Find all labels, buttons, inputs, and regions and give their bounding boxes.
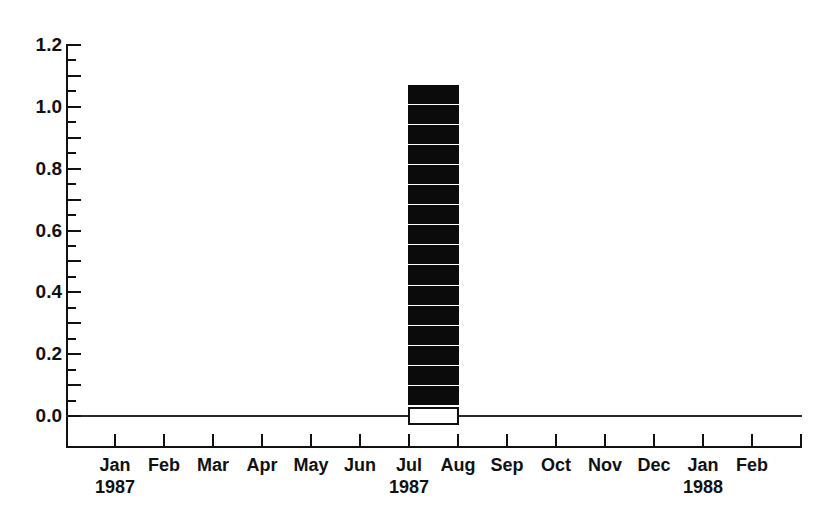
y-tick-0.95 — [68, 121, 76, 123]
x-axis-month-labels: Jan1987FebMarAprMayJunJul1987AugSepOctNo… — [0, 455, 834, 525]
y-tick-1.20 — [68, 44, 81, 46]
chart-figure: 0.00.20.40.60.81.01.2 Jan1987FebMarAprMa… — [0, 0, 834, 532]
x-tick-2 — [163, 434, 165, 447]
y-tick-0.10 — [68, 384, 81, 386]
y-tick-0.85 — [68, 152, 76, 154]
y-tick-label-0.8: 0.8 — [6, 159, 62, 178]
y-tick-label-0.6: 0.6 — [6, 221, 62, 240]
x-tick-11 — [604, 434, 606, 447]
y-axis-tick-labels: 0.00.20.40.60.81.01.2 — [0, 0, 62, 532]
bar-open-box-zero — [408, 407, 459, 426]
x-tick-6 — [359, 434, 361, 447]
x-tick-9 — [506, 434, 508, 447]
y-tick-0.20 — [68, 353, 81, 355]
x-tick-5 — [310, 434, 312, 447]
y-tick-0.60 — [68, 230, 81, 232]
bar-band-0 — [408, 85, 459, 104]
y-tick-1.05 — [68, 90, 76, 92]
bar-band-9 — [408, 265, 459, 284]
x-tick-3 — [212, 434, 214, 447]
bar-band-2 — [408, 125, 459, 144]
year-text: 1987 — [75, 477, 155, 499]
y-tick-0.30 — [68, 322, 81, 324]
y-tick-label-0.2: 0.2 — [6, 344, 62, 363]
y-tick-1.10 — [68, 75, 81, 77]
bar-band-8 — [408, 245, 459, 264]
y-tick-1.15 — [68, 59, 76, 61]
y-tick-label-1.0: 1.0 — [6, 97, 62, 116]
year-text: 1988 — [663, 477, 743, 499]
bar-band-7 — [408, 225, 459, 244]
bar-band-15 — [408, 386, 459, 405]
y-tick-0.75 — [68, 183, 76, 185]
x-tick-1 — [114, 434, 116, 447]
bar-band-1 — [408, 105, 459, 124]
bar-band-6 — [408, 205, 459, 224]
y-tick-label-1.2: 1.2 — [6, 35, 62, 54]
y-tick-0.55 — [68, 245, 76, 247]
y-tick-0.40 — [68, 291, 81, 293]
bar-band-4 — [408, 165, 459, 184]
bar-jul-aug-1987 — [408, 0, 459, 532]
bar-band-13 — [408, 346, 459, 365]
bar-band-14 — [408, 366, 459, 385]
y-tick-0.35 — [68, 307, 76, 309]
x-tick-12 — [653, 434, 655, 447]
y-tick-0.50 — [68, 260, 81, 262]
x-tick-14 — [751, 434, 753, 447]
y-tick-0.00 — [68, 415, 81, 417]
y-tick-label-0.0: 0.0 — [6, 406, 62, 425]
x-label-feb-13: Feb — [712, 455, 792, 477]
x-tick-10 — [555, 434, 557, 447]
x-axis-right-end-cap — [800, 434, 802, 448]
month-text: Feb — [736, 455, 768, 475]
y-tick-0.70 — [68, 199, 81, 201]
y-tick-0.25 — [68, 338, 76, 340]
bar-band-10 — [408, 286, 459, 305]
bar-band-11 — [408, 306, 459, 325]
x-tick-4 — [261, 434, 263, 447]
y-tick-0.80 — [68, 168, 81, 170]
y-tick-0.45 — [68, 276, 76, 278]
x-tick-13 — [702, 434, 704, 447]
y-tick-0.65 — [68, 214, 76, 216]
bar-band-12 — [408, 326, 459, 345]
bar-band-5 — [408, 185, 459, 204]
y-tick-0.05 — [68, 400, 76, 402]
year-text: 1987 — [369, 477, 449, 499]
y-tick-0.15 — [68, 369, 76, 371]
bar-band-3 — [408, 145, 459, 164]
y-tick-label-0.4: 0.4 — [6, 282, 62, 301]
y-tick-1.00 — [68, 106, 81, 108]
y-tick-0.90 — [68, 137, 81, 139]
